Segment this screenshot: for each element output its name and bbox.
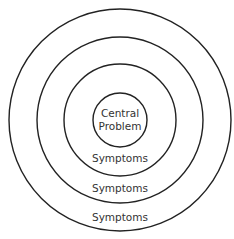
ring-label-1: Symptoms [0,152,234,164]
central-label-line1: Central [0,107,234,119]
ring-label-2: Symptoms [0,182,234,194]
ring-label-3: Symptoms [0,211,234,223]
central-label-line2: Problem [0,120,234,132]
